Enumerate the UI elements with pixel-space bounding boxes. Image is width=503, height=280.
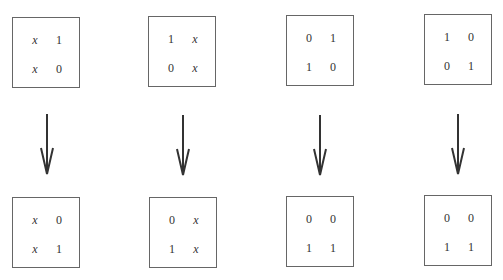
matrix-cell: 0	[464, 212, 478, 224]
matrix-top-3: 0 1 1 0	[286, 15, 354, 86]
matrix-top-2: 1 x 0 x	[148, 16, 216, 87]
matrix-cell: x	[28, 63, 42, 75]
arrow-down-icon	[450, 114, 466, 176]
arrow-down-icon	[312, 115, 328, 177]
matrix-cell: 0	[464, 31, 478, 43]
matrix-cell: 1	[440, 31, 454, 43]
matrix-cell: 0	[440, 212, 454, 224]
matrix-cell: x	[188, 62, 202, 74]
matrix-cell: 1	[164, 33, 178, 45]
matrix-cell: 0	[164, 62, 178, 74]
matrix-cell: 0	[326, 61, 340, 73]
matrix-cell: 1	[302, 61, 316, 73]
matrix-cell: 0	[326, 213, 340, 225]
matrix-bottom-4: 0 0 1 1	[424, 195, 492, 266]
matrix-cell: 0	[302, 32, 316, 44]
matrix-cell: x	[28, 214, 42, 226]
matrix-cell: x	[189, 214, 203, 226]
matrix-cell: 0	[302, 213, 316, 225]
matrix-cell: 1	[52, 34, 66, 46]
matrix-bottom-3: 0 0 1 1	[286, 196, 354, 267]
matrix-cell: 1	[326, 242, 340, 254]
matrix-cell: 1	[464, 241, 478, 253]
matrix-cell: x	[28, 243, 42, 255]
matrix-cell: 0	[165, 214, 179, 226]
matrix-cell: 0	[52, 63, 66, 75]
matrix-cell: 1	[440, 241, 454, 253]
matrix-cell: x	[28, 34, 42, 46]
matrix-cell: 1	[464, 60, 478, 72]
arrow-down-icon	[39, 114, 55, 176]
matrix-cell: 1	[302, 242, 316, 254]
matrix-top-4: 1 0 0 1	[424, 14, 492, 85]
arrow-down-icon	[175, 115, 191, 177]
matrix-bottom-2: 0 x 1 x	[149, 197, 217, 268]
matrix-top-1: x 1 x 0	[12, 17, 80, 88]
matrix-cell: 1	[165, 243, 179, 255]
matrix-cell: 0	[52, 214, 66, 226]
matrix-bottom-1: x 0 x 1	[12, 197, 80, 268]
matrix-cell: 1	[52, 243, 66, 255]
matrix-cell: 1	[326, 32, 340, 44]
matrix-cell: x	[188, 33, 202, 45]
matrix-cell: 0	[440, 60, 454, 72]
matrix-cell: x	[189, 243, 203, 255]
